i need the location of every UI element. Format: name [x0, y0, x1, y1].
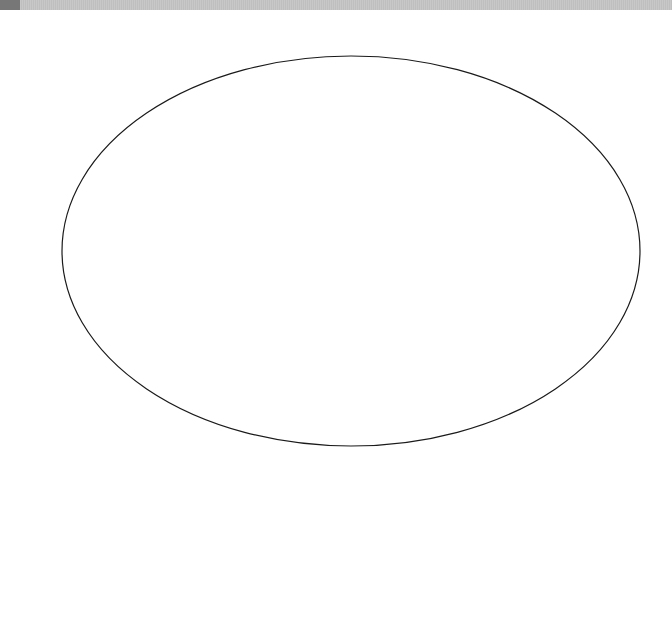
ellipse-shape — [62, 56, 640, 446]
diagram-canvas — [0, 0, 672, 620]
